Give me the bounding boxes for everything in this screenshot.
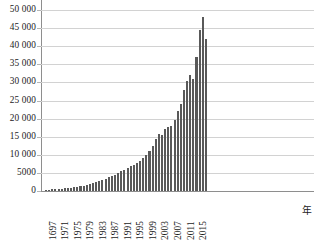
bar-series	[42, 0, 314, 191]
bar	[177, 111, 179, 191]
bar	[142, 158, 144, 191]
bar	[183, 90, 185, 191]
x-axis-tick-label: 2015	[199, 221, 208, 240]
x-axis-tick-label: 1995	[136, 221, 145, 240]
bar	[76, 187, 78, 191]
bar	[61, 189, 63, 191]
bar	[180, 104, 182, 191]
bar	[199, 30, 201, 191]
y-axis-tick-label: 0	[31, 186, 36, 195]
bar	[205, 39, 207, 191]
bar	[127, 168, 129, 191]
y-axis-tick-label: 20 000	[10, 114, 36, 123]
x-axis-tick-label: 2003	[161, 221, 170, 240]
bar	[158, 134, 160, 191]
bar	[117, 173, 119, 191]
bar	[64, 188, 66, 191]
y-axis-tick-label: 40 000	[10, 41, 36, 50]
y-axis-tick-label: 25 000	[10, 96, 36, 105]
bar	[174, 120, 176, 191]
bar	[164, 129, 166, 191]
x-axis-tick-label: 1975	[74, 221, 83, 240]
x-axis-tick-label: 1991	[124, 221, 133, 240]
bar	[98, 181, 100, 191]
bar	[152, 146, 154, 191]
x-axis-tick-labels: 年 16971971197519791983198719911995199920…	[41, 192, 314, 244]
bar	[161, 135, 163, 191]
bar	[92, 183, 94, 191]
bar	[139, 161, 141, 191]
x-axis-tick-label: 2011	[187, 221, 196, 240]
bar	[73, 187, 75, 191]
bar	[48, 190, 50, 191]
y-axis-tick-labels: 0500010 00015 00020 00025 00030 00035 00…	[0, 0, 41, 244]
bar	[108, 177, 110, 191]
x-axis-title: 年	[302, 206, 312, 216]
bar	[123, 170, 125, 191]
bar	[148, 151, 150, 191]
bar	[105, 179, 107, 191]
bar	[95, 182, 97, 191]
bar	[130, 166, 132, 191]
bar	[145, 155, 147, 191]
bar	[101, 180, 103, 191]
bar	[195, 57, 197, 191]
bar	[202, 17, 204, 191]
bar	[189, 75, 191, 191]
bar	[89, 184, 91, 191]
bar	[111, 176, 113, 191]
x-axis-tick-label: 1999	[149, 221, 158, 240]
bar	[167, 127, 169, 191]
bar	[120, 171, 122, 191]
x-axis-tick-label: 1987	[111, 221, 120, 240]
y-axis-tick-label: 15 000	[10, 132, 36, 141]
bar	[58, 189, 60, 191]
bar	[83, 186, 85, 191]
x-axis-tick-label: 1979	[86, 221, 95, 240]
y-axis-tick-label: 50 000	[10, 5, 36, 14]
y-axis-tick-label: 10 000	[10, 150, 36, 159]
bar	[45, 190, 47, 191]
bar	[186, 81, 188, 191]
plot-area: 年 16971971197519791983198719911995199920…	[41, 0, 314, 244]
bar	[136, 163, 138, 191]
bar	[192, 79, 194, 191]
bar	[51, 189, 53, 191]
x-axis-tick-label: 2007	[174, 221, 183, 240]
bar	[86, 185, 88, 191]
bar	[70, 188, 72, 191]
y-axis-tick-label: 45 000	[10, 23, 36, 32]
y-axis-tick-label: 5000	[17, 168, 36, 177]
bar-chart: 0500010 00015 00020 00025 00030 00035 00…	[0, 0, 314, 244]
bar	[170, 126, 172, 191]
bar	[67, 188, 69, 191]
x-axis-tick-label: 1983	[99, 221, 108, 240]
bar	[155, 139, 157, 191]
bar	[79, 186, 81, 191]
x-axis-tick-label: 1971	[61, 221, 70, 240]
y-axis-tick-label: 30 000	[10, 77, 36, 86]
bar	[54, 189, 56, 191]
x-axis-tick-label: 1697	[49, 221, 58, 240]
y-axis-tick-label: 35 000	[10, 59, 36, 68]
bar	[133, 165, 135, 191]
bar	[114, 175, 116, 191]
